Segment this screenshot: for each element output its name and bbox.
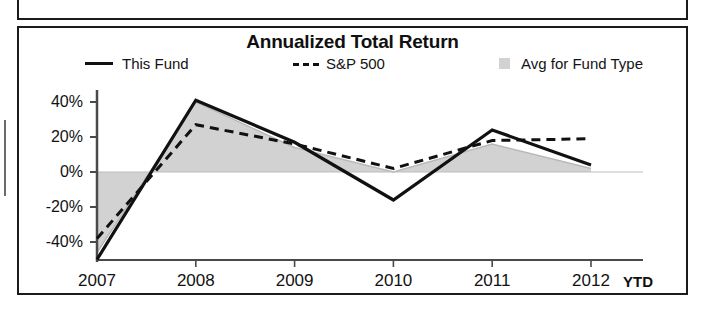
x-axis-label: 2007 bbox=[78, 271, 116, 291]
panel-above-fragment bbox=[17, 0, 688, 20]
left-margin-rule bbox=[4, 120, 6, 196]
y-axis-label: 20% bbox=[19, 128, 83, 146]
y-axis-label: 0% bbox=[19, 163, 83, 181]
line-chart-canvas bbox=[19, 28, 686, 293]
avg-fund-type-area bbox=[97, 102, 591, 253]
y-axis-label: -40% bbox=[19, 233, 83, 251]
x-axis-label: 2008 bbox=[177, 271, 215, 291]
y-axis-label: -20% bbox=[19, 198, 83, 216]
x-axis-label: 2010 bbox=[374, 271, 412, 291]
x-axis-label: 2009 bbox=[276, 271, 314, 291]
x-axis-label: 2012 bbox=[572, 271, 610, 291]
screenshot-root: Annualized Total Return This Fund S&P 50… bbox=[0, 0, 709, 322]
y-axis-label: 40% bbox=[19, 93, 83, 111]
x-axis-ytd-note: YTD bbox=[623, 273, 653, 290]
x-axis-label: 2011 bbox=[474, 271, 511, 291]
plot-area: 40%20%0%-20%-40%200720082009201020112012… bbox=[19, 28, 686, 293]
annualized-total-return-panel: Annualized Total Return This Fund S&P 50… bbox=[17, 26, 688, 295]
avg-fund-type-line bbox=[97, 102, 591, 253]
this-fund-line bbox=[97, 100, 591, 259]
